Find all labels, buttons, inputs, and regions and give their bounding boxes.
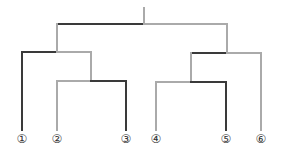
leaf-label-5: ⑤ <box>221 132 232 146</box>
dendrogram: ① ② ③ ④ ⑤ ⑥ <box>0 0 283 153</box>
leaf-label-6: ⑥ <box>256 132 267 146</box>
leaf-label-1: ① <box>17 132 28 146</box>
leaf-label-2: ② <box>52 132 63 146</box>
leaf-label-4: ④ <box>151 132 162 146</box>
leaf-label-3: ③ <box>121 132 132 146</box>
